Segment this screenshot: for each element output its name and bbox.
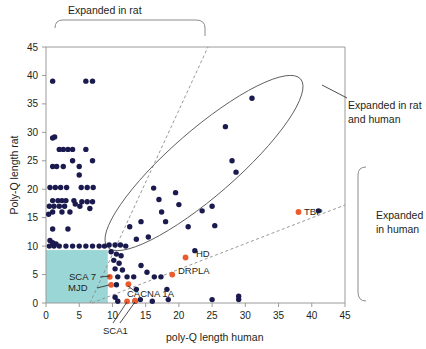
data-point [112,242,117,247]
data-point [108,249,113,254]
data-point [127,224,132,229]
data-point [54,164,59,169]
y-tick-label: 40 [27,70,39,81]
expanded-rat-human-label-1: Expanded in rat [348,99,422,111]
x-axis-ticks: 051015202530354045 [43,303,351,321]
poly-q-scatter-figure: 051015202530354045 051015202530354045 Ex… [0,0,426,349]
data-point [47,243,52,248]
x-tick-label: 40 [306,310,318,321]
data-point [79,185,84,190]
expanded-in-human-bracket [358,167,366,301]
y-tick-label: 35 [27,98,39,109]
data-point [115,299,120,304]
data-point [115,274,120,279]
data-point [249,96,254,101]
x-tick-label: 20 [173,310,185,321]
disease-data-point-drpla [169,272,175,278]
data-point [52,134,57,139]
drpla-label: DRPLA [178,265,210,276]
data-point [59,209,64,214]
x-tick-label: 15 [140,310,152,321]
y-tick-label: 15 [27,212,39,223]
x-tick-label: 5 [76,310,82,321]
x-tick-label: 35 [273,310,285,321]
data-point [120,267,125,272]
data-point [90,185,95,190]
x-tick-label: 10 [107,310,119,321]
data-point [63,243,68,248]
data-point [58,185,63,190]
data-point [90,243,95,248]
data-point [159,209,164,214]
data-point [150,299,155,304]
data-point [57,204,62,209]
data-point [199,208,204,213]
data-point [114,282,119,287]
data-point [118,253,123,258]
data-point [65,226,70,231]
hd-label: HD [196,248,210,259]
data-point [176,202,181,207]
x-tick-label: 30 [240,310,252,321]
data-point [50,78,55,83]
data-point [163,219,168,224]
data-point [77,164,82,169]
x-tick-label: 25 [207,310,219,321]
x-tick-label: 0 [43,310,49,321]
data-point [233,169,238,174]
data-point [173,190,178,195]
data-point [63,198,68,203]
expanded-rat-human-label-2: and human [348,113,401,125]
data-point [77,243,82,248]
data-point [102,243,107,248]
data-point [83,147,88,152]
y-axis-title: Poly-Q length rat [8,136,20,215]
cacna1a-label: CACNA 1A [127,288,175,299]
data-point [90,158,95,163]
data-point [146,234,151,239]
data-point [61,147,66,152]
data-point [158,274,163,279]
data-point [144,270,149,275]
data-point [83,243,88,248]
data-point [47,185,52,190]
data-point [90,78,95,83]
expanded-in-human-label-2: in human [376,223,419,235]
data-point [106,242,111,247]
data-point [138,219,143,224]
y-axis-ticks: 051015202530354045 [27,42,46,309]
data-point [209,204,214,209]
disease-data-point-sca1 [124,298,130,304]
data-point [83,78,88,83]
data-point [70,147,75,152]
data-point [236,293,241,298]
data-point [156,197,161,202]
tbp-label: TBP [304,206,322,217]
y-tick-label: 0 [32,298,38,309]
x-tick-label: 45 [339,310,351,321]
data-point [123,243,128,248]
data-point [185,224,190,229]
mjd-label: MJD [68,282,88,293]
data-point [51,243,56,248]
data-point [47,204,52,209]
data-point [77,204,82,209]
data-point [61,164,66,169]
y-tick-label: 10 [27,241,39,252]
ellipse-leader-line [322,85,347,98]
y-tick-label: 25 [27,155,39,166]
data-point [64,185,69,190]
data-point [62,204,67,209]
data-point [51,204,56,209]
data-point [67,209,72,214]
data-point [138,263,143,268]
data-point [111,258,116,263]
expanded-in-rat-and-human-ellipse [86,54,323,272]
data-point [50,226,55,231]
data-point [70,243,75,248]
scatter-plot-svg: 051015202530354045 051015202530354045 Ex… [0,0,426,349]
data-point [90,199,95,204]
data-point [50,198,55,203]
y-tick-label: 20 [27,184,39,195]
sca1-label: SCA1 [103,325,128,336]
